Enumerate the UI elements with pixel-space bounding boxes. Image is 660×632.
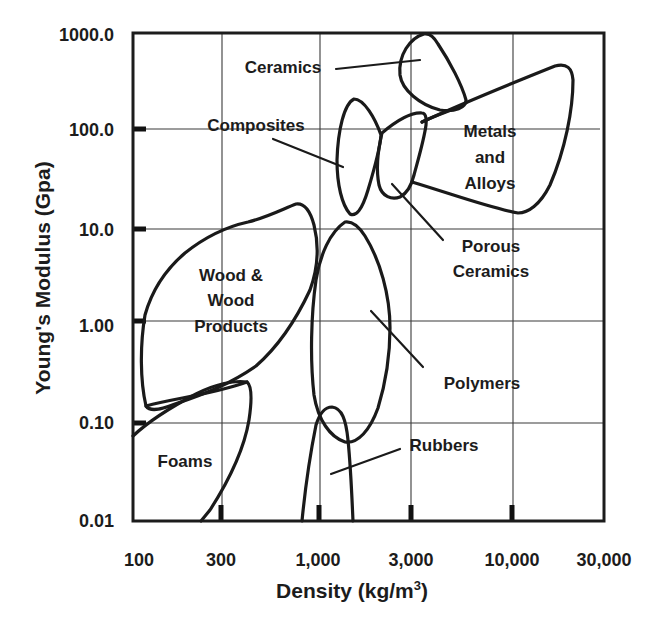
y-tick-label-1: 1.00	[79, 316, 114, 336]
label-metals-line1: Metals	[464, 122, 517, 141]
leader-porous-ceramics	[392, 184, 443, 240]
region-ceramics	[400, 34, 466, 111]
label-polymers: Polymers	[444, 374, 521, 393]
label-wood-line1: Wood &	[199, 266, 263, 285]
x-tick-label-3000: 3,000	[388, 550, 433, 570]
x-axis-title-superscript: 3	[414, 578, 421, 593]
x-axis-title-main: Density (kg/m	[276, 579, 414, 602]
label-porous-line2: Ceramics	[453, 262, 530, 281]
leader-composites	[273, 139, 343, 167]
chart-svg: Ceramics Composites Metals and Alloys Po…	[0, 0, 660, 632]
label-wood-line3: Products	[194, 317, 268, 336]
label-rubbers: Rubbers	[410, 436, 479, 455]
x-tick-label-1000: 1,000	[295, 550, 340, 570]
y-tick-label-100: 100.0	[69, 120, 114, 140]
y-tick-label-0.01: 0.01	[79, 511, 114, 531]
leader-rubbers	[331, 449, 400, 474]
region-composites	[337, 99, 381, 215]
y-tick-label-0.1: 0.10	[79, 413, 114, 433]
y-tick-labels: 1000.0 100.0 10.0 1.00 0.10 0.01	[59, 25, 114, 531]
leader-polymers	[371, 311, 423, 367]
region-foams-lower	[146, 382, 247, 406]
x-axis-title-close: )	[421, 579, 428, 602]
label-wood-line2: Wood	[208, 291, 255, 310]
label-metals-line3: Alloys	[464, 174, 515, 193]
x-tick-label-10000: 10,000	[484, 550, 539, 570]
label-ceramics: Ceramics	[245, 58, 322, 77]
x-tick-labels: 100 300 1,000 3,000 10,000 30,000	[124, 550, 632, 570]
ashby-chart: Ceramics Composites Metals and Alloys Po…	[0, 0, 660, 632]
x-tick-label-300: 300	[206, 550, 236, 570]
region-rubbers	[302, 407, 353, 521]
x-tick-label-100: 100	[124, 550, 154, 570]
label-composites: Composites	[207, 116, 304, 135]
y-tick-label-1000: 1000.0	[59, 25, 114, 45]
label-porous-line1: Porous	[462, 237, 521, 256]
leader-ceramics	[336, 60, 420, 69]
label-foams: Foams	[158, 452, 213, 471]
x-tick-label-30000: 30,000	[576, 550, 631, 570]
label-metals-line2: and	[475, 148, 505, 167]
y-tick-label-10: 10.0	[79, 220, 114, 240]
x-axis-title: Density (kg/m3)	[276, 578, 428, 602]
y-axis-title: Young's Modulus (Gpa)	[31, 161, 54, 394]
